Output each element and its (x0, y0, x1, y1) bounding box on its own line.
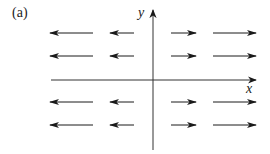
x-axis-label: x (246, 81, 252, 97)
panel-label: (a) (12, 5, 28, 21)
axes (51, 10, 256, 150)
vector-field-diagram: (a) y x (0, 0, 270, 154)
y-axis-label: y (138, 5, 144, 21)
vector-field-canvas (0, 0, 270, 154)
